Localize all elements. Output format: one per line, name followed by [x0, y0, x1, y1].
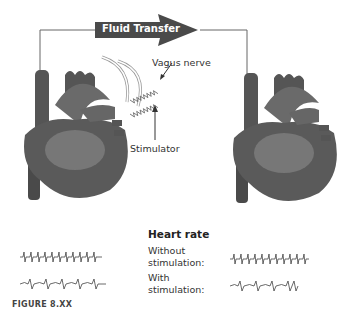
- figure-caption: FIGURE 8.XX: [12, 300, 72, 309]
- without-stimulation-label: Without stimulation:: [148, 245, 204, 269]
- heart-rate-title: Heart rate: [148, 228, 209, 240]
- ecg-fast-left: [20, 248, 120, 266]
- vagus-nerve-label: Vagus nerve: [152, 57, 211, 68]
- ecg-slow-left: [20, 275, 120, 293]
- with-stimulation-label: With stimulation:: [148, 272, 204, 296]
- ecg-slow-right: [230, 277, 325, 295]
- recipient-heart-icon: [224, 68, 339, 208]
- fluid-transfer-label: Fluid Transfer: [102, 23, 180, 34]
- stimulator-pointer-icon: [150, 105, 160, 140]
- ecg-fast-right: [230, 250, 325, 268]
- stimulator-label: Stimulator: [130, 143, 180, 154]
